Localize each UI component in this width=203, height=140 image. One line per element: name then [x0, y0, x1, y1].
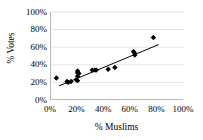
- x-tick-label: 60%: [122, 105, 139, 114]
- x-tick-label: 100%: [173, 105, 194, 114]
- x-axis-title: % Muslims: [50, 122, 183, 132]
- scatter-chart: % Votes 0%20%40%60%80%100% 0%20%40%60%80…: [0, 0, 203, 140]
- x-axis-tick-labels: 0%20%40%60%80%100%: [0, 0, 203, 140]
- x-tick-label: 80%: [148, 105, 165, 114]
- x-tick-label: 40%: [95, 105, 112, 114]
- x-tick-label: 0%: [44, 105, 56, 114]
- x-tick-label: 20%: [68, 105, 85, 114]
